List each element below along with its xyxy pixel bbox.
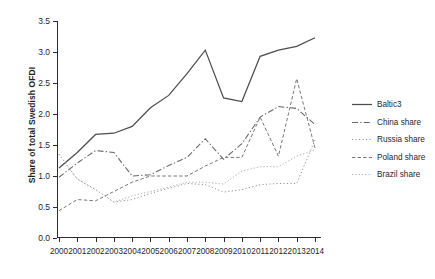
- y-tick-label: 1.5: [24, 140, 50, 150]
- y-tick-label: 2.0: [24, 109, 50, 119]
- y-tick-label: 3.5: [24, 16, 50, 26]
- legend-item[interactable]: China share: [352, 114, 434, 132]
- legend-item[interactable]: Russia share: [352, 131, 434, 149]
- legend-label: Poland share: [377, 153, 425, 162]
- legend-swatch-icon: [352, 135, 372, 144]
- chart-legend: Baltic3China shareRussia sharePoland sha…: [352, 96, 434, 184]
- y-tick-label: 3.0: [24, 47, 50, 57]
- chart-figure: Share of total Swedish OFDI 0.00.51.01.5…: [0, 0, 435, 279]
- legend-swatch-icon: [352, 153, 372, 162]
- legend-item[interactable]: Baltic3: [352, 96, 434, 114]
- legend-item[interactable]: Brazil share: [352, 166, 434, 184]
- legend-label: Baltic3: [377, 100, 402, 109]
- series-line-russia-share: [59, 140, 315, 202]
- series-line-poland-share: [59, 79, 315, 211]
- legend-label: Russia share: [377, 135, 425, 144]
- legend-swatch-icon: [352, 100, 372, 109]
- y-tick-label: 1.0: [24, 171, 50, 181]
- legend-swatch-icon: [352, 170, 372, 179]
- series-lines: [57, 18, 321, 240]
- x-tick-label: 2014: [298, 247, 332, 256]
- series-line-baltic3: [59, 38, 315, 168]
- legend-label: Brazil share: [377, 170, 420, 179]
- y-axis-title: Share of total Swedish OFDI: [27, 30, 37, 220]
- legend-swatch-icon: [352, 118, 372, 127]
- legend-item[interactable]: Poland share: [352, 149, 434, 167]
- y-tick-label: 2.5: [24, 78, 50, 88]
- plot-area: 0.00.51.01.52.02.53.03.5 200020012002200…: [57, 18, 321, 240]
- y-tick-label: 0.0: [24, 233, 50, 243]
- y-tick-label: 0.5: [24, 202, 50, 212]
- legend-label: China share: [377, 118, 421, 127]
